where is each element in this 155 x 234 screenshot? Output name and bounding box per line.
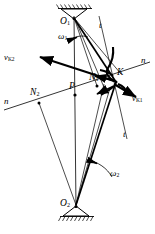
label-pitch-point-P: P xyxy=(69,82,75,92)
gear-meshing-diagram: O1 O2 K P N1 N2 ω1 ω2 vK2 vK1 n n t t xyxy=(0,0,155,234)
label-normal-foot-N2: N2 xyxy=(30,88,40,98)
upper-tooth-flank-curve xyxy=(107,47,115,82)
label-pivot-top: O1 xyxy=(60,17,70,27)
links-from-pivot-bottom xyxy=(39,82,116,205)
label-velocity-k1: vK1 xyxy=(132,94,143,103)
label-contact-point-K: K xyxy=(117,68,123,78)
label-omega-2: ω2 xyxy=(110,169,119,179)
diagram-canvas xyxy=(0,0,155,234)
point-N2-dot xyxy=(38,102,41,105)
angular-velocity-arc-2 xyxy=(88,160,112,177)
point-N1-dot xyxy=(96,85,99,88)
label-normal-foot-N1: N1 xyxy=(89,73,99,83)
label-omega-1: ω1 xyxy=(58,32,67,42)
point-K-dot xyxy=(115,81,118,84)
label-normal-line-right: n xyxy=(141,56,146,65)
label-normal-line-left: n xyxy=(4,97,9,106)
label-velocity-k2: vK2 xyxy=(4,53,15,62)
label-tangent-lower: t xyxy=(123,130,126,139)
label-tangent-upper: t xyxy=(99,21,102,30)
angular-velocity-arc-1 xyxy=(70,36,88,40)
label-pivot-bottom: O2 xyxy=(60,199,70,209)
point-P-dot xyxy=(73,93,76,96)
centre-distance-line xyxy=(74,16,76,208)
